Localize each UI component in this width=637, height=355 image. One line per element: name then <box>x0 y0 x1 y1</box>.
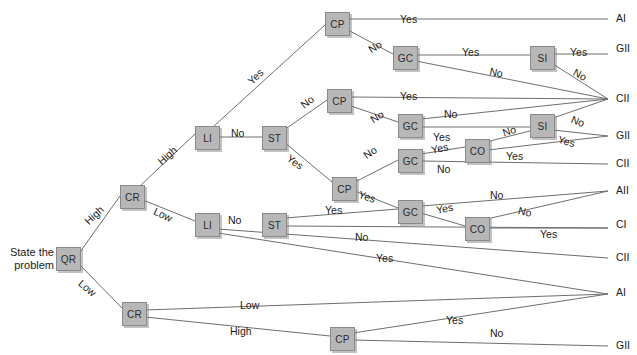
node-li1[interactable]: LI <box>195 126 220 150</box>
outcome-o8: CII <box>616 251 629 263</box>
edge-label-e37: Yes <box>446 314 463 326</box>
node-cp2[interactable]: CP <box>327 89 352 113</box>
edge-cp3-gc3 <box>355 160 398 182</box>
edge-label-e6: No <box>231 127 244 139</box>
outcome-o3: CII <box>616 92 629 104</box>
outcome-o9: AI <box>616 286 626 298</box>
edge-st2-ci <box>285 226 608 228</box>
edge-label-e31: No <box>490 189 503 201</box>
node-gc4[interactable]: GC <box>398 200 423 224</box>
start-label: State the problem <box>0 246 54 272</box>
edge-cp4-gii <box>353 340 608 346</box>
edge-label-e29: Yes <box>506 150 523 162</box>
outcome-o1: AI <box>616 12 626 24</box>
edge-li2-ai <box>218 233 608 294</box>
node-si2[interactable]: SI <box>530 114 555 138</box>
edge-label-e17: Yes <box>570 46 587 58</box>
node-gc3[interactable]: GC <box>398 149 423 173</box>
edge-cp4-ai <box>353 294 608 333</box>
edge-gc4-co2 <box>421 213 465 226</box>
edge-label-e34: Yes <box>540 228 557 240</box>
edge-label-e36: High <box>230 325 252 337</box>
edge-label-e10: Yes <box>325 204 342 216</box>
edge-li1-cp1 <box>214 25 325 126</box>
edge-label-e19: Yes <box>400 90 417 102</box>
edge-label-e16: No <box>489 65 505 80</box>
edge-cr2-ai <box>145 294 608 310</box>
node-cr2[interactable]: CR <box>122 302 147 326</box>
outcome-o6: AII <box>616 184 629 196</box>
node-li2[interactable]: LI <box>195 213 220 237</box>
node-co2[interactable]: CO <box>465 217 490 241</box>
edge-label-e11: No <box>355 231 368 243</box>
decision-tree-diagram: State the problem QRCRCRLILISTSTCPCPCPCP… <box>0 0 637 355</box>
node-cp4[interactable]: CP <box>330 327 355 351</box>
edge-label-e15: Yes <box>462 46 479 58</box>
node-st1[interactable]: ST <box>262 126 287 150</box>
start-label-line1: State the <box>0 246 54 259</box>
edge-label-e38: No <box>490 327 503 339</box>
edge-label-e9: No <box>228 214 241 226</box>
edge-label-e28: No <box>437 163 450 175</box>
node-si1[interactable]: SI <box>530 46 555 70</box>
start-label-line2: problem <box>0 259 54 272</box>
edge-co1-gii <box>488 136 608 150</box>
outcome-o10: GII <box>616 339 630 351</box>
outcome-o4: GII <box>616 129 630 141</box>
node-cr1[interactable]: CR <box>120 185 145 209</box>
node-cp3[interactable]: CP <box>332 177 357 201</box>
node-gc2[interactable]: GC <box>398 114 423 138</box>
edge-label-e21: No <box>444 108 457 120</box>
edge-label-e35: Low <box>240 299 259 311</box>
node-st2[interactable]: ST <box>262 213 287 237</box>
outcome-o2: GII <box>616 42 630 54</box>
outcome-o5: CII <box>616 157 629 169</box>
node-cp1[interactable]: CP <box>325 12 350 36</box>
edge-label-e13: Yes <box>400 13 417 25</box>
node-qr[interactable]: QR <box>56 247 81 271</box>
edge-cp2-cii <box>351 97 608 99</box>
edge-label-e12: Yes <box>376 252 393 264</box>
node-gc1[interactable]: GC <box>393 46 418 70</box>
edge-co2-aii <box>487 191 608 219</box>
outcome-o7: CI <box>616 218 627 230</box>
node-co1[interactable]: CO <box>465 139 490 163</box>
